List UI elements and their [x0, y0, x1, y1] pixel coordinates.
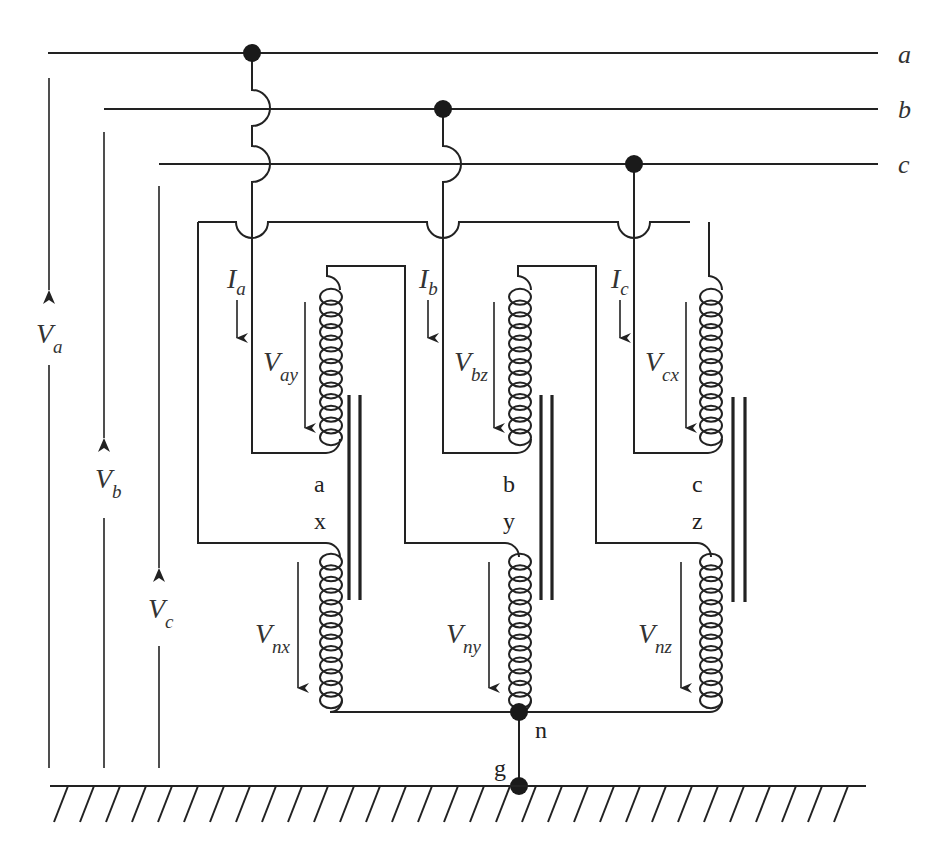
label-vny: Vny	[446, 618, 482, 657]
label-vcx: Vcx	[645, 346, 680, 385]
junction-dot-b	[434, 100, 452, 118]
label-vay: Vay	[263, 346, 299, 385]
phase-a-feeder	[252, 53, 340, 453]
transformer-diagram: a b c Va Vb Vc	[0, 0, 948, 848]
coil-lower-a	[320, 554, 342, 708]
core-c	[733, 397, 745, 602]
core-b	[541, 395, 552, 600]
coil-lower-c	[700, 554, 722, 708]
label-g: g	[494, 755, 506, 781]
neutral-bus-left-end	[330, 700, 342, 712]
bus-label-a: a	[898, 40, 911, 69]
core-a	[349, 395, 360, 600]
upper-coil-a-lead	[327, 266, 519, 557]
label-vnx: Vnx	[255, 618, 291, 657]
label-n: n	[535, 717, 547, 743]
coil-upper-b	[509, 289, 531, 445]
upper-coil-b-lead	[518, 266, 711, 557]
terminal-label-y: y	[503, 508, 515, 534]
terminal-label-x: x	[314, 508, 326, 534]
bus-label-c: c	[898, 150, 910, 179]
return-wire-x	[198, 222, 340, 557]
label-vb: Vb	[95, 463, 122, 502]
label-vbz: Vbz	[454, 346, 489, 385]
label-va: Va	[36, 318, 63, 357]
node-n	[510, 703, 528, 721]
junction-dot-c	[625, 155, 643, 173]
phase-b-feeder	[443, 109, 531, 453]
ground-symbol	[50, 786, 866, 822]
label-vc: Vc	[148, 593, 174, 632]
terminal-label-b: b	[503, 471, 515, 497]
terminal-label-z: z	[692, 508, 703, 534]
coil-lower-b	[509, 554, 531, 708]
label-ib: Ib	[418, 263, 438, 299]
label-ic: Ic	[610, 263, 629, 299]
label-ia: Ia	[226, 263, 246, 299]
terminal-label-c: c	[692, 471, 703, 497]
label-vnz: Vnz	[638, 618, 673, 657]
terminal-label-a: a	[314, 471, 325, 497]
junction-dot-a	[243, 44, 261, 62]
coil-upper-a	[320, 289, 342, 445]
bus-label-b: b	[898, 95, 911, 124]
coil-upper-c	[700, 289, 722, 445]
upper-coil-c-lead	[709, 222, 722, 290]
